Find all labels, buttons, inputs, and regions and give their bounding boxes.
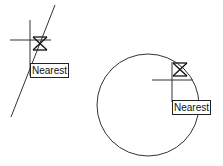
snap-tooltip-right: Nearest — [172, 100, 211, 115]
snap-tooltip-left: Nearest — [30, 63, 69, 78]
diagonal-line — [11, 5, 55, 117]
nearest-snap-marker-icon — [33, 37, 47, 50]
diagram-canvas — [0, 0, 223, 166]
